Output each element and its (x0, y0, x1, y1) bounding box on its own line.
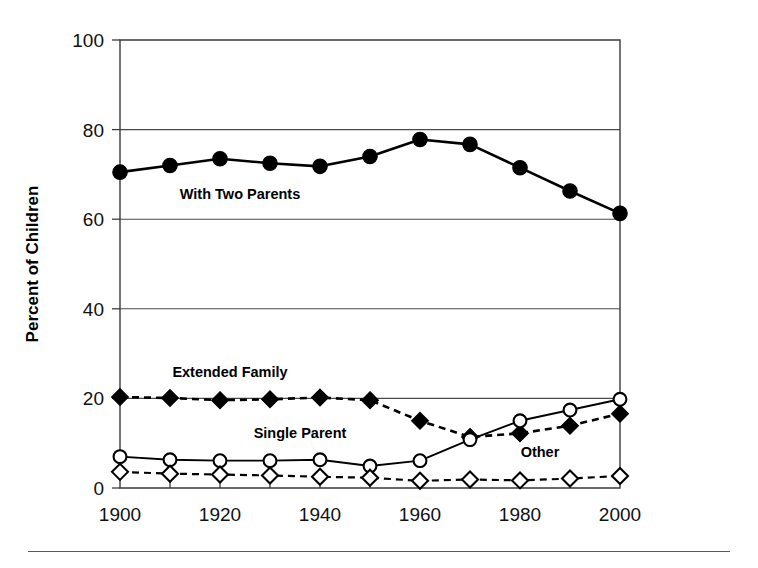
data-point-marker (162, 466, 178, 482)
series-annotation-labels: With Two ParentsExtended FamilySingle Pa… (172, 186, 559, 460)
data-point-marker (614, 393, 627, 406)
data-point-marker (512, 472, 528, 488)
data-point-marker (264, 454, 277, 467)
series-label-other: Other (521, 444, 560, 460)
data-point-marker (213, 152, 227, 166)
data-point-marker (312, 469, 328, 485)
series-label-with-two-parents: With Two Parents (180, 186, 300, 202)
y-tick-label-80: 80 (83, 120, 104, 141)
grid-lines (120, 130, 620, 399)
data-point-marker (314, 453, 327, 466)
x-tick-label-1920: 1920 (199, 504, 241, 525)
y-tick-label-0: 0 (93, 478, 104, 499)
data-point-marker (463, 137, 477, 151)
data-point-marker (262, 467, 278, 483)
data-point-marker (112, 464, 128, 480)
data-point-marker (464, 433, 477, 446)
data-point-marker (114, 450, 127, 463)
x-tick-label-1940: 1940 (299, 504, 341, 525)
series-markers-extended-family (112, 389, 629, 446)
data-point-marker (412, 412, 429, 429)
data-point-marker (363, 149, 377, 163)
y-tick-label-20: 20 (83, 388, 104, 409)
data-point-marker (563, 184, 577, 198)
x-tick-label-1900: 1900 (99, 504, 141, 525)
data-point-marker (113, 165, 127, 179)
y-tick-label-100: 100 (72, 30, 104, 51)
data-point-marker (564, 404, 577, 417)
data-point-marker (263, 156, 277, 170)
figure-container: 020406080100 190019201940196019802000 Wi… (0, 0, 758, 568)
series-label-single-parent: Single Parent (254, 425, 347, 441)
data-point-marker (162, 390, 179, 407)
data-point-marker (413, 132, 427, 146)
data-point-marker (514, 414, 527, 427)
data-point-marker (513, 160, 527, 174)
x-tick-label-2000: 2000 (599, 504, 641, 525)
data-point-marker (362, 392, 379, 409)
data-point-marker (412, 473, 428, 489)
x-axis-tick-labels: 190019201940196019802000 (99, 504, 641, 525)
data-point-marker (414, 454, 427, 467)
bottom-divider-rule (28, 551, 730, 552)
series-markers-with-two-parents (113, 132, 627, 220)
data-point-marker (313, 159, 327, 173)
data-point-marker (562, 417, 579, 434)
y-axis-title: Percent of Children (23, 186, 42, 343)
data-point-marker (262, 391, 279, 408)
data-point-marker (212, 467, 228, 483)
tick-marks (112, 40, 570, 488)
data-point-marker (362, 470, 378, 486)
y-tick-label-60: 60 (83, 209, 104, 230)
data-point-marker (312, 389, 329, 406)
series-label-extended-family: Extended Family (172, 364, 287, 380)
data-point-marker (612, 405, 629, 422)
plot-frame (120, 40, 620, 488)
y-axis-tick-labels: 020406080100 (72, 30, 104, 499)
data-point-marker (163, 158, 177, 172)
data-point-marker (462, 471, 478, 487)
data-point-marker (562, 471, 578, 487)
x-tick-label-1980: 1980 (499, 504, 541, 525)
data-point-marker (612, 468, 628, 484)
line-chart: 020406080100 190019201940196019802000 Wi… (0, 0, 758, 568)
data-point-marker (112, 389, 129, 406)
data-point-marker (212, 392, 229, 409)
x-tick-label-1960: 1960 (399, 504, 441, 525)
y-tick-label-40: 40 (83, 299, 104, 320)
plot-border (120, 40, 620, 488)
data-point-marker (613, 206, 627, 220)
